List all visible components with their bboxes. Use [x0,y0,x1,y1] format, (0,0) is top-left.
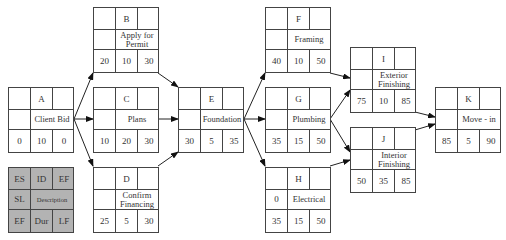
sl-cell [266,110,288,129]
es-value: 85 [436,130,458,152]
empty-cell [266,88,288,110]
ef-value: 35 [223,130,245,152]
arrow-d-e [158,152,178,166]
activity-id: D [116,168,138,190]
arrow-i-k [415,112,435,117]
ef-value: 90 [480,130,502,152]
ef-value: 85 [395,90,417,112]
slack-cell [9,88,31,110]
duration-value: 20 [116,130,138,152]
legend-es: ES [9,168,31,190]
activity-description: Apply for Permit [116,30,158,49]
activity-node-h: H 0Electrical 351550 [265,167,331,233]
ef-value: 50 [310,210,332,232]
activity-node-i: I Exterior Finishing 751085 [350,47,416,113]
sl-cell: 0 [266,190,288,209]
activity-id: I [373,48,395,70]
empty-cell [94,168,116,190]
arrow-f-i [330,73,350,78]
es-value: 75 [351,90,373,112]
empty-cell [310,168,332,190]
empty-cell [179,88,201,110]
activity-description: Interior Finishing [373,150,415,169]
sl-cell [351,70,373,89]
legend-sl: SL [9,190,31,209]
activity-description: Plans [116,110,158,129]
ef-value: 85 [395,170,417,192]
activity-id: G [288,88,310,110]
activity-description: Foundation [201,110,243,129]
activity-description: Framing [288,30,330,49]
sl-cell [94,190,116,209]
activity-id: K [458,88,480,110]
arrow-j-k [415,124,435,130]
arrow-e-h [244,119,265,166]
empty-cell [351,128,373,150]
empty-cell [310,8,332,30]
arrow-h-j [330,160,350,166]
duration-value: 10 [288,50,310,72]
activity-node-g: G Plumbing 351550 [265,87,331,153]
es-value: 20 [94,50,116,72]
duration-value: 15 [288,130,310,152]
activity-node-k: K Move - in 85590 [435,87,501,153]
activity-description: Client Bid [31,110,73,129]
empty-cell [138,88,160,110]
activity-id: J [373,128,395,150]
es-value: 25 [94,210,116,232]
legend-lf: LF [53,210,75,232]
empty-cell [223,88,245,110]
empty-cell [436,88,458,110]
empty-cell [395,48,417,70]
ef-value: 50 [310,50,332,72]
empty-cell [94,8,116,30]
duration-value: 10 [31,130,53,152]
arrow-a-b [74,73,93,119]
activity-description: Move - in [458,110,500,129]
duration-value: 5 [458,130,480,152]
sl-cell [266,30,288,49]
sl-cell [94,30,116,49]
es-value: 35 [266,210,288,232]
activity-id: E [201,88,223,110]
empty-cell [53,88,75,110]
activity-node-b: B Apply for Permit 201030 [93,7,159,73]
activity-description: Plumbing [288,110,330,129]
empty-cell [310,88,332,110]
activity-id: B [116,8,138,30]
sl-cell [94,110,116,129]
ef-value: 50 [310,130,332,152]
empty-cell [395,128,417,150]
es-value: 35 [266,130,288,152]
sl-cell [179,110,201,129]
empty-cell [138,8,160,30]
es-value: 50 [351,170,373,192]
activity-node-j: J Interior Finishing 503585 [350,127,416,193]
duration-value: 35 [373,170,395,192]
es-value: 40 [266,50,288,72]
ef-value: 30 [138,130,160,152]
duration-value: 5 [201,130,223,152]
legend-key: ESIDEF SLDescription EFDurLF [8,167,74,233]
arrow-e-f [244,73,265,119]
dependency-arrows [0,0,506,240]
empty-cell [94,88,116,110]
ef-value: 30 [138,210,160,232]
arrow-a-d [74,119,93,166]
activity-node-d: D Confirm Financing 25530 [93,167,159,233]
ef-value: 30 [138,50,160,72]
legend-description: Description [31,190,73,209]
activity-id: F [288,8,310,30]
arrow-g-j [330,119,350,152]
activity-node-e: E Foundation 30535 [178,87,244,153]
activity-id: A [31,88,53,110]
duration-value: 10 [116,50,138,72]
legend-id: ID [31,168,53,190]
empty-cell [266,168,288,190]
activity-description: Electrical [288,190,330,209]
sl-cell [9,110,31,129]
duration-value: 15 [288,210,310,232]
arrow-b-e [158,73,178,87]
activity-id: H [288,168,310,190]
legend-ef-bottom: EF [9,210,31,232]
